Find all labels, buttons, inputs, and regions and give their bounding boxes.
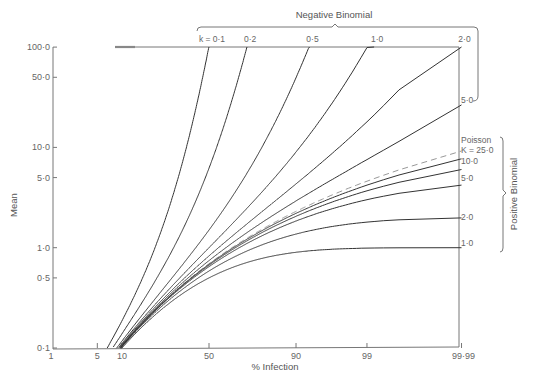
x-tick-label: 1 [49,351,54,361]
x-tick-label: 99 [362,351,372,361]
positive-binomial-label: Positive Binomial [508,158,519,230]
positive-binomial-bracket [500,137,506,252]
curve-label: 5·0 [461,173,474,183]
y-tick-label: 1·0 [37,243,50,253]
y-tick-label: 50·0 [32,72,50,82]
y-tick-label: 10·0 [32,142,50,152]
x-tick-label: 50 [204,351,214,361]
y-ticks: 0·10·51·05·010·050·0100·0 [27,42,57,353]
curve-label: 2·0 [458,34,471,44]
curve-negative-binomial [120,105,462,348]
y-tick-label: 0·5 [37,273,50,283]
curve-negative-binomial [113,47,247,347]
x-tick-label: 99·99 [452,351,475,361]
x-axis-title: % Infection [252,361,299,372]
x-tick-label: 90 [291,351,301,361]
y-tick-label: 5·0 [37,173,50,183]
curve-label: 5·0 [461,95,474,105]
curve-label: 1·0 [371,34,384,44]
x-ticks: 151050909999·99 [49,343,476,361]
x-tick-label: 10 [117,351,127,361]
curve-positive-binomial [121,170,462,348]
curve-label: 0·2 [244,34,257,44]
x-tick-label: 5 [95,351,100,361]
curve-label: 10·0 [461,156,478,166]
curves [107,47,461,349]
curve-label: Poisson [461,135,492,145]
curve-label: k = 0·1 [199,34,225,44]
curve-label: K = 25·0 [461,145,494,155]
curve-negative-binomial [107,47,209,348]
curve-positive-binomial [121,185,462,348]
curve-positive-binomial [122,248,462,349]
negative-binomial-label: Negative Binomial [296,9,373,20]
curve-label: 1·0 [461,238,474,248]
curve-poisson [120,151,462,349]
curve-positive-binomial [121,218,462,349]
y-axis-title: Mean [8,193,19,217]
chart-canvas: 0·10·51·05·010·050·0100·0 151050909999·9… [0,0,533,387]
negative-binomial-bracket [197,24,478,101]
curve-label: 2·0 [461,212,474,222]
curve-negative-binomial [117,47,310,348]
y-tick-label: 100·0 [27,42,50,52]
x-axis-line [53,347,459,349]
curve-label: 0·5 [306,34,319,44]
curve-negative-binomial [119,47,374,348]
